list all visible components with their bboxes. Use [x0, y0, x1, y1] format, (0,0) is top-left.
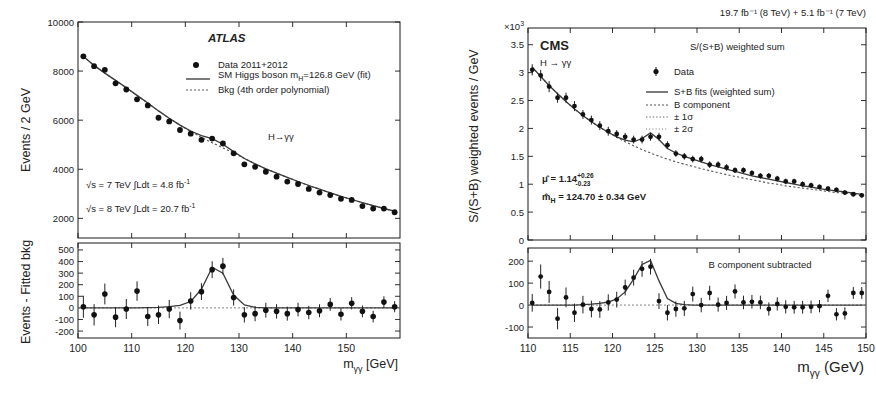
data-point — [209, 136, 215, 142]
data-point — [597, 123, 602, 128]
tick-label: 145 — [815, 342, 833, 354]
cms-fit-mu: μ̂ = 1.14+0.26-0.23 — [542, 172, 594, 187]
atlas-legend-data-marker — [193, 62, 199, 68]
atlas-bottom-xticks: 100110120130140150 — [69, 243, 355, 354]
data-point — [826, 186, 831, 191]
data-point — [285, 311, 291, 317]
data-point — [851, 192, 856, 197]
atlas-bottom-ylabel: Events - Fitted bkg — [19, 240, 33, 344]
tick-label: 0.5 — [511, 207, 524, 218]
data-point — [842, 311, 847, 316]
data-point — [91, 312, 97, 318]
data-point — [724, 165, 729, 170]
data-point — [327, 192, 333, 198]
atlas-panel: 200040006000800010000 Events / 2 GeV ATL… — [0, 0, 460, 395]
tick-label: 300 — [58, 268, 74, 279]
tick-label: 3 — [519, 67, 524, 78]
data-point — [766, 173, 771, 178]
cms-svg: 19.7 fb⁻¹ (8 TeV) + 5.1 fb⁻¹ (7 TeV) 00.… — [460, 0, 876, 395]
cms-top-ylabel: S/(S+B) weighted events / GeV — [467, 49, 481, 223]
cms-legend-data-label: Data — [674, 66, 695, 77]
data-point — [284, 179, 290, 185]
data-point — [538, 274, 543, 279]
tick-label: 140 — [284, 342, 302, 354]
cms-experiment-label: CMS — [540, 38, 569, 53]
tick-label: 130 — [230, 342, 248, 354]
data-point — [657, 134, 662, 139]
tick-label: 120 — [604, 342, 622, 354]
data-point — [166, 119, 172, 125]
data-point — [750, 299, 755, 304]
tick-label: 2 — [519, 123, 524, 134]
cms-xlabel: mγγ (GeV) — [797, 358, 864, 379]
data-point — [690, 157, 695, 162]
data-point — [733, 168, 738, 173]
data-point — [392, 209, 398, 215]
data-point — [349, 197, 355, 203]
cms-legend-2sigma-label: ± 2σ — [674, 123, 693, 134]
tick-label: 150 — [338, 342, 356, 354]
data-point — [589, 118, 594, 123]
data-point — [792, 179, 797, 184]
data-point — [657, 299, 662, 304]
atlas-channel-label: H→γγ — [268, 131, 294, 142]
data-point — [327, 302, 333, 308]
data-point — [690, 292, 695, 297]
data-point — [530, 300, 535, 305]
data-point — [263, 307, 269, 313]
data-point — [564, 95, 569, 100]
cms-yaxis-scale: ×103 — [504, 20, 524, 32]
data-point — [80, 53, 86, 59]
data-point — [166, 306, 172, 312]
data-point — [623, 134, 628, 139]
data-point — [673, 151, 678, 156]
atlas-top-yticks: 200040006000800010000 — [48, 17, 400, 224]
data-point — [741, 168, 746, 173]
data-point — [295, 307, 301, 313]
data-point — [724, 300, 729, 305]
data-point — [220, 263, 226, 269]
data-point — [188, 131, 194, 137]
data-point — [370, 206, 376, 212]
data-point — [800, 182, 805, 187]
tick-label: 6000 — [53, 115, 74, 126]
data-point — [134, 288, 140, 294]
data-point — [699, 303, 704, 308]
tick-label: 110 — [520, 342, 537, 354]
atlas-lumi-7tev: √s = 7 TeV ∫Ldt = 4.8 fb-1 — [86, 178, 190, 190]
data-point — [792, 305, 797, 310]
tick-label: 10000 — [48, 17, 74, 28]
data-point — [263, 169, 269, 175]
data-point — [859, 193, 864, 198]
data-point — [842, 190, 847, 195]
data-point — [707, 162, 712, 167]
data-point — [817, 185, 822, 190]
data-point — [530, 67, 535, 72]
tick-label: 0 — [69, 302, 74, 313]
data-point — [800, 305, 805, 310]
data-point — [102, 67, 108, 73]
tick-label: 2000 — [53, 213, 74, 224]
data-point — [572, 104, 577, 109]
tick-label: 100 — [508, 278, 524, 289]
cms-residual-fit-curve — [532, 261, 862, 306]
data-point — [91, 63, 97, 69]
data-point — [589, 307, 594, 312]
data-point — [665, 310, 670, 315]
atlas-top-ylabel: Events / 2 GeV — [19, 87, 33, 172]
data-point — [606, 129, 611, 134]
atlas-xlabel: mγγ [GeV] — [343, 357, 398, 374]
data-point — [766, 307, 771, 312]
cms-bottom-frame — [528, 248, 866, 338]
data-point — [572, 310, 577, 315]
data-point — [199, 137, 205, 143]
data-point — [834, 312, 839, 317]
data-point — [564, 295, 569, 300]
data-point — [648, 134, 653, 139]
atlas-legend: Data 2011+2012 SM Higgs boson mH=126.8 G… — [186, 59, 371, 95]
data-point — [381, 206, 387, 212]
tick-label: 200 — [58, 279, 74, 290]
tick-label: 125 — [646, 342, 664, 354]
data-point — [581, 112, 586, 117]
data-point — [555, 316, 560, 321]
